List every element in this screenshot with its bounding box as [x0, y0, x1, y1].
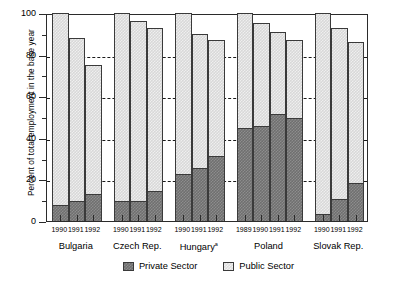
bar-segment-public — [131, 22, 146, 203]
legend-entry-public: Public Sector — [223, 261, 294, 271]
bar-czech-rep--1990 — [114, 13, 131, 221]
bar-segment-public — [193, 35, 208, 170]
bar-hungary-1992 — [208, 40, 225, 221]
y-tick-0 — [39, 222, 46, 223]
x-tick-1991 — [138, 215, 139, 221]
footnote-marker: a — [215, 241, 218, 247]
y-tick-label-0: 0 — [2, 216, 36, 226]
y-tick-label-100: 100 — [2, 8, 36, 18]
x-tick-1991 — [278, 215, 279, 221]
y-tick-label-40: 40 — [2, 133, 36, 143]
chart-legend: Private SectorPublic Sector — [0, 261, 417, 271]
legend-swatch-public — [223, 262, 234, 271]
x-tick-1992 — [93, 215, 94, 221]
y-tick-label-80: 80 — [2, 50, 36, 60]
x-tick-1992 — [356, 215, 357, 221]
bar-segment-public — [86, 66, 101, 196]
bar-segment-public — [332, 29, 347, 202]
bar-segment-public — [316, 14, 331, 216]
x-tick-1990 — [122, 215, 123, 221]
bar-segment-public — [271, 33, 286, 116]
bar-czech-rep--1992 — [147, 28, 164, 221]
y-tick-60 — [39, 97, 46, 98]
x-axis-country-label: Slovak Rep. — [293, 241, 383, 251]
x-axis-year-label: 1992 — [143, 226, 165, 233]
bar-poland-1991 — [270, 32, 287, 221]
x-axis-year-label: 1992 — [204, 226, 226, 233]
x-tick-1991 — [77, 215, 78, 221]
y-tick-label-20: 20 — [2, 174, 36, 184]
bar-segment-public — [287, 41, 302, 120]
x-tick-1989 — [245, 215, 246, 221]
bar-czech-rep--1991 — [130, 21, 147, 221]
bar-segment-private — [176, 174, 191, 221]
x-axis-year-label: 1992 — [282, 226, 304, 233]
bar-bulgaria-1990 — [52, 13, 69, 221]
y-tick-40 — [39, 139, 46, 140]
bar-segment-public — [238, 14, 253, 130]
bar-segment-private — [209, 156, 224, 221]
bar-segment-public — [70, 39, 85, 203]
bar-poland-1989 — [237, 13, 254, 221]
plot-inner — [47, 15, 367, 221]
y-tick-80 — [39, 56, 46, 57]
x-tick-1992 — [155, 215, 156, 221]
y-tick-20 — [39, 180, 46, 181]
bar-hungary-1991 — [192, 34, 209, 221]
employment-by-sector-chart: Percent of total employment in the base … — [0, 0, 417, 281]
bar-segment-public — [349, 43, 364, 184]
x-tick-1992 — [216, 215, 217, 221]
bar-hungary-1990 — [175, 13, 192, 221]
bar-poland-1990 — [253, 23, 270, 221]
bar-segment-public — [209, 41, 224, 157]
y-tick-100 — [39, 14, 46, 15]
x-tick-1990 — [261, 215, 262, 221]
legend-label: Private Sector — [139, 261, 197, 271]
legend-swatch-private — [123, 262, 134, 271]
x-tick-1990 — [183, 215, 184, 221]
scan-artifact — [0, 0, 417, 5]
x-axis-year-label: 1992 — [81, 226, 103, 233]
bar-segment-public — [148, 29, 163, 193]
y-axis-title: Percent of total employment in the base … — [27, 8, 36, 218]
x-tick-1991 — [339, 215, 340, 221]
bar-bulgaria-1991 — [69, 38, 86, 221]
bar-segment-public — [176, 14, 191, 176]
bar-segment-public — [115, 14, 130, 203]
x-tick-1992 — [294, 215, 295, 221]
bar-segment-public — [53, 14, 68, 207]
x-tick-1990 — [323, 215, 324, 221]
x-axis-year-label: 1992 — [344, 226, 366, 233]
bar-slovak-rep--1991 — [331, 28, 348, 221]
bar-segment-private — [287, 118, 302, 221]
bar-segment-private — [254, 126, 269, 221]
bar-segment-public — [254, 24, 269, 128]
bar-segment-private — [271, 114, 286, 221]
y-tick-label-60: 60 — [2, 91, 36, 101]
bar-bulgaria-1992 — [85, 65, 102, 221]
legend-entry-private: Private Sector — [123, 261, 197, 271]
bar-slovak-rep--1992 — [348, 42, 365, 221]
plot-area — [46, 14, 368, 222]
x-tick-1991 — [200, 215, 201, 221]
x-tick-1990 — [60, 215, 61, 221]
bar-poland-1992 — [286, 40, 303, 221]
bar-segment-private — [193, 168, 208, 221]
bar-slovak-rep--1990 — [315, 13, 332, 221]
bar-segment-private — [238, 128, 253, 221]
legend-label: Public Sector — [239, 261, 294, 271]
